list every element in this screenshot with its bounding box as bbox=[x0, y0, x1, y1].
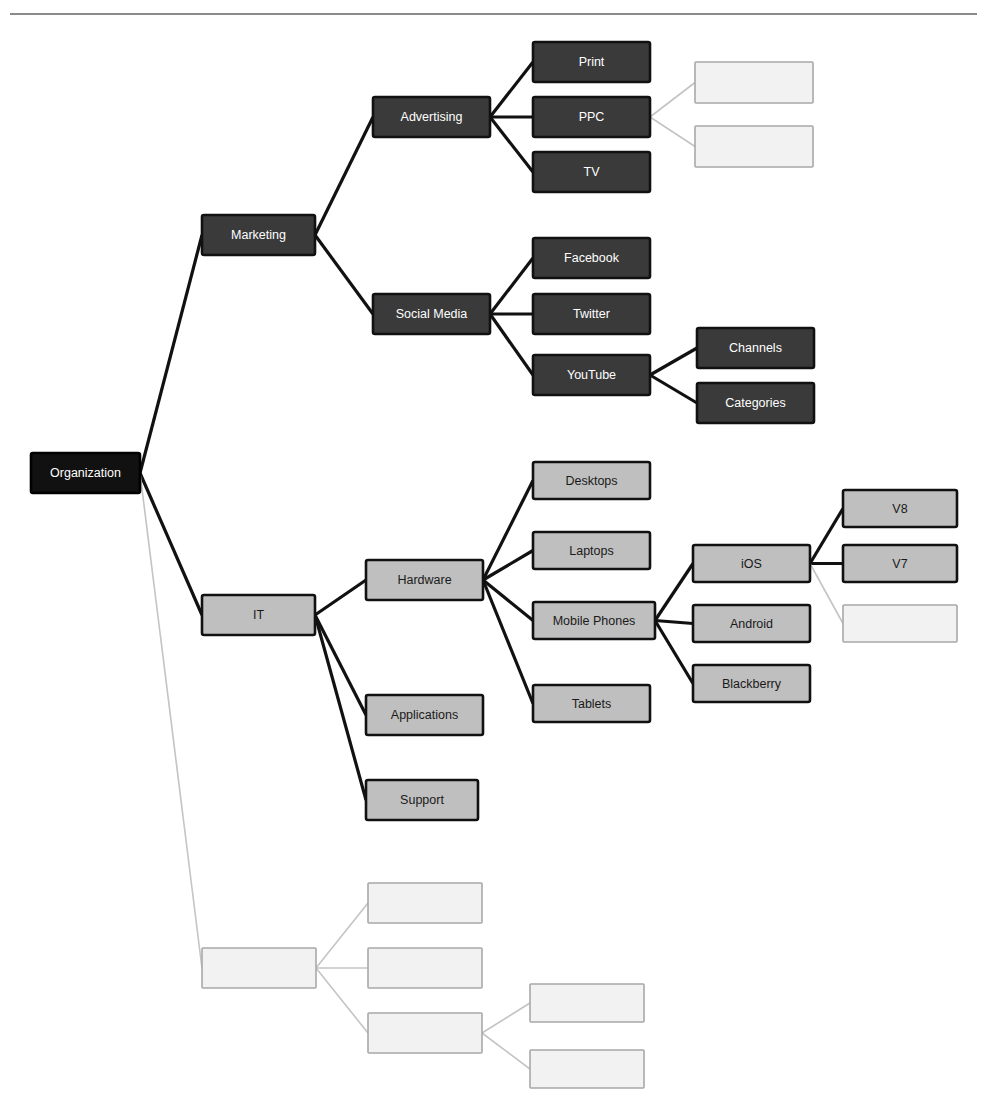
node-label-tv: TV bbox=[584, 165, 601, 179]
node-v8[interactable]: V8 bbox=[843, 490, 957, 527]
node-label-ios: iOS bbox=[741, 557, 762, 571]
edge-ghost-branch-to-ghost-child-3 bbox=[316, 968, 368, 1033]
node-marketing[interactable]: Marketing bbox=[202, 215, 315, 255]
node-ghost-child-2[interactable] bbox=[368, 948, 482, 988]
node-organization[interactable]: Organization bbox=[31, 453, 140, 493]
node-ios[interactable]: iOS bbox=[693, 545, 810, 582]
edge-youtube-to-channels bbox=[650, 348, 697, 375]
edge-advertising-to-print bbox=[490, 62, 533, 117]
node-ppc[interactable]: PPC bbox=[533, 97, 650, 137]
node-label-advertising: Advertising bbox=[401, 110, 463, 124]
node-box-ghost-gchild-1[interactable] bbox=[530, 984, 644, 1022]
edge-ppc-to-ppc-child-1 bbox=[650, 83, 695, 118]
node-label-blackberry: Blackberry bbox=[722, 677, 782, 691]
edge-mobile-phones-to-blackberry bbox=[655, 621, 693, 684]
node-label-it: IT bbox=[253, 608, 264, 622]
edge-ios-to-v8 bbox=[810, 509, 843, 564]
node-label-android: Android bbox=[730, 617, 773, 631]
node-print[interactable]: Print bbox=[533, 42, 650, 82]
node-v7[interactable]: V7 bbox=[843, 545, 957, 582]
edge-it-to-hardware bbox=[315, 580, 366, 615]
node-tv[interactable]: TV bbox=[533, 152, 650, 192]
node-label-ppc: PPC bbox=[579, 110, 605, 124]
node-label-youtube: YouTube bbox=[567, 368, 616, 382]
node-label-v7: V7 bbox=[892, 557, 907, 571]
node-box-ghost-child-2[interactable] bbox=[368, 948, 482, 988]
node-box-ppc-child-1[interactable] bbox=[695, 62, 813, 103]
node-label-social-media: Social Media bbox=[396, 307, 468, 321]
edge-social-media-to-youtube bbox=[490, 314, 533, 375]
node-ghost-branch[interactable] bbox=[202, 948, 316, 988]
edge-social-media-to-facebook bbox=[490, 258, 533, 314]
edge-ghost-child-3-to-ghost-gchild-2 bbox=[482, 1033, 530, 1069]
node-channels[interactable]: Channels bbox=[697, 328, 814, 368]
node-label-twitter: Twitter bbox=[573, 307, 610, 321]
node-label-mobile-phones: Mobile Phones bbox=[553, 614, 636, 628]
node-box-ghost-gchild-2[interactable] bbox=[530, 1050, 644, 1088]
node-box-ghost-branch[interactable] bbox=[202, 948, 316, 988]
node-box-ppc-child-2[interactable] bbox=[695, 126, 813, 167]
node-android[interactable]: Android bbox=[693, 605, 810, 642]
edge-organization-to-marketing bbox=[140, 235, 202, 473]
node-label-v8: V8 bbox=[892, 502, 907, 516]
node-categories[interactable]: Categories bbox=[697, 383, 814, 423]
node-youtube[interactable]: YouTube bbox=[533, 355, 650, 395]
node-social-media[interactable]: Social Media bbox=[373, 294, 490, 334]
node-label-categories: Categories bbox=[725, 396, 785, 410]
edge-it-to-support bbox=[315, 615, 366, 800]
edge-ios-to-ios-child-3 bbox=[810, 564, 843, 624]
node-ios-child-3[interactable] bbox=[843, 605, 957, 642]
node-facebook[interactable]: Facebook bbox=[533, 238, 650, 278]
node-advertising[interactable]: Advertising bbox=[373, 97, 490, 137]
node-tablets[interactable]: Tablets bbox=[533, 685, 650, 722]
node-label-marketing: Marketing bbox=[231, 228, 286, 242]
node-label-tablets: Tablets bbox=[572, 697, 612, 711]
node-mobile-phones[interactable]: Mobile Phones bbox=[533, 602, 655, 639]
node-blackberry[interactable]: Blackberry bbox=[693, 665, 810, 702]
edge-it-to-applications bbox=[315, 615, 366, 715]
node-applications[interactable]: Applications bbox=[366, 695, 483, 735]
node-ghost-child-1[interactable] bbox=[368, 883, 482, 923]
node-label-laptops: Laptops bbox=[569, 544, 613, 558]
diagram-page: OrganizationMarketingAdvertisingPrintPPC… bbox=[0, 0, 987, 1109]
node-label-hardware: Hardware bbox=[397, 573, 451, 587]
node-laptops[interactable]: Laptops bbox=[533, 532, 650, 569]
edge-marketing-to-advertising bbox=[315, 117, 373, 235]
node-ghost-child-3[interactable] bbox=[368, 1013, 482, 1053]
edge-youtube-to-categories bbox=[650, 375, 697, 403]
node-hardware[interactable]: Hardware bbox=[366, 560, 483, 600]
node-label-support: Support bbox=[400, 793, 444, 807]
node-ppc-child-2[interactable] bbox=[695, 126, 813, 167]
edge-mobile-phones-to-android bbox=[655, 621, 693, 624]
node-ghost-gchild-2[interactable] bbox=[530, 1050, 644, 1088]
node-it[interactable]: IT bbox=[202, 595, 315, 635]
node-label-desktops: Desktops bbox=[565, 474, 617, 488]
organization-tree-diagram: OrganizationMarketingAdvertisingPrintPPC… bbox=[0, 0, 987, 1109]
edge-advertising-to-tv bbox=[490, 117, 533, 172]
node-support[interactable]: Support bbox=[366, 780, 478, 820]
node-ppc-child-1[interactable] bbox=[695, 62, 813, 103]
node-label-print: Print bbox=[579, 55, 605, 69]
node-desktops[interactable]: Desktops bbox=[533, 462, 650, 499]
node-label-organization: Organization bbox=[50, 466, 121, 480]
edge-ppc-to-ppc-child-2 bbox=[650, 117, 695, 147]
node-box-ghost-child-3[interactable] bbox=[368, 1013, 482, 1053]
node-label-applications: Applications bbox=[391, 708, 458, 722]
edge-ghost-child-3-to-ghost-gchild-1 bbox=[482, 1003, 530, 1033]
edge-mobile-phones-to-ios bbox=[655, 564, 693, 621]
edge-ghost-branch-to-ghost-child-1 bbox=[316, 903, 368, 968]
node-label-channels: Channels bbox=[729, 341, 782, 355]
node-box-ios-child-3[interactable] bbox=[843, 605, 957, 642]
node-twitter[interactable]: Twitter bbox=[533, 294, 650, 334]
node-label-facebook: Facebook bbox=[564, 251, 620, 265]
node-box-ghost-child-1[interactable] bbox=[368, 883, 482, 923]
edge-marketing-to-social-media bbox=[315, 235, 373, 314]
node-ghost-gchild-1[interactable] bbox=[530, 984, 644, 1022]
